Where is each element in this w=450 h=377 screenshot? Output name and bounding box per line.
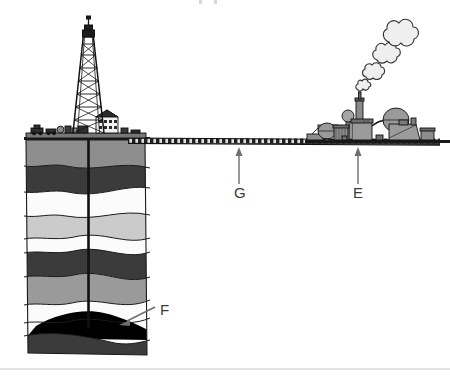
refinery-process-unit (351, 119, 373, 140)
smoke-plume (356, 19, 419, 91)
oil-field-diagram: F G E (0, 0, 450, 377)
smoke-puff-4 (383, 19, 418, 46)
arrow-e (355, 147, 362, 184)
label-arrows (119, 147, 362, 326)
label-f: F (160, 301, 169, 318)
label-e: E (353, 184, 363, 201)
top-cropped-mark (199, 0, 217, 4)
label-g: G (234, 184, 246, 201)
refinery-right-tank (420, 128, 435, 140)
truck-left (31, 125, 43, 135)
diagram-canvas: F G E (0, 0, 450, 377)
borehole (87, 136, 90, 328)
refinery (307, 92, 435, 141)
stratum-topsoil (24, 140, 150, 168)
smoke-puff-1 (356, 79, 371, 91)
arrow-g (236, 147, 243, 184)
smoke-puff-2 (362, 63, 384, 80)
